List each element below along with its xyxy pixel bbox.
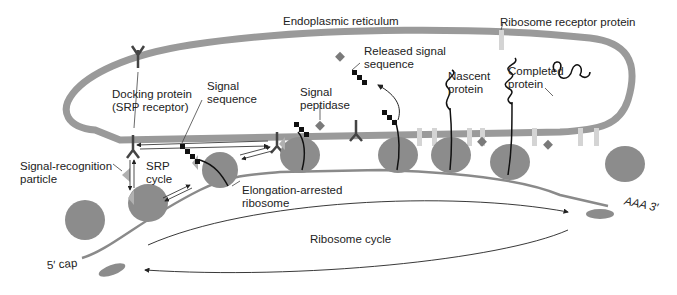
label-completed-line1: Completed — [508, 65, 564, 78]
label-elongation-arrested-ribosome: Elongation-arrested ribosome — [242, 184, 342, 210]
label-docking-protein-line1: Docking protein — [112, 88, 192, 101]
label-signal-sequence-line2: sequence — [207, 93, 257, 106]
label-released-signal-line2: sequence — [364, 58, 446, 71]
label-signal-peptidase: Signal peptidase — [300, 86, 350, 112]
label-signal-sequence-line1: Signal — [207, 80, 257, 93]
label-signal-recognition-particle: Signal-recognition particle — [20, 160, 112, 186]
label-completed-protein: Completed protein — [508, 65, 564, 91]
label-docking-protein: Docking protein (SRP receptor) — [112, 88, 192, 114]
label-nascent-protein: Nascent protein — [448, 70, 490, 96]
label-srp-line2: particle — [20, 173, 112, 186]
release-arrow — [378, 85, 399, 120]
label-endoplasmic-reticulum: Endoplasmic reticulum — [283, 15, 399, 28]
label-srp-cycle-line1: SRP — [146, 160, 172, 173]
label-srp-cycle-line2: cycle — [146, 173, 172, 186]
label-released-signal-line1: Released signal — [364, 45, 446, 58]
label-nascent-line1: Nascent — [448, 70, 490, 83]
label-completed-line2: protein — [508, 78, 564, 91]
label-docking-protein-line2: (SRP receptor) — [112, 101, 192, 114]
label-srp-cycle: SRP cycle — [146, 160, 172, 186]
label-ribosome-receptor-protein: Ribosome receptor protein — [500, 16, 636, 29]
diagram-graphics — [0, 0, 677, 295]
label-signal-peptidase-line2: peptidase — [300, 99, 350, 112]
ribosomes — [65, 137, 645, 279]
label-srp-line1: Signal-recognition — [20, 160, 112, 173]
label-5-prime-cap: 5′ cap — [46, 257, 77, 273]
label-signal-sequence: Signal sequence — [207, 80, 257, 106]
label-released-signal-sequence: Released signal sequence — [364, 45, 446, 71]
label-elongation-line1: Elongation-arrested — [242, 184, 342, 197]
label-elongation-line2: ribosome — [242, 197, 342, 210]
er-translocation-diagram: Endoplasmic reticulum Ribosome receptor … — [0, 0, 677, 295]
label-ribosome-cycle: Ribosome cycle — [310, 233, 391, 246]
label-signal-peptidase-line1: Signal — [300, 86, 350, 99]
label-nascent-line2: protein — [448, 83, 490, 96]
